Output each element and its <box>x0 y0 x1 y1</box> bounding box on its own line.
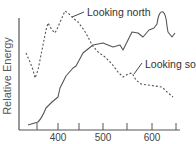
x-ticks <box>37 123 176 130</box>
north-leader-line <box>72 12 84 17</box>
south-leader-line <box>134 63 142 74</box>
x-tick-label-600: 600 <box>144 132 161 143</box>
series-looking-south <box>26 11 173 97</box>
x-tick-label-400: 400 <box>50 132 67 143</box>
annotation-looking-north: Looking north <box>87 6 151 18</box>
x-tick-label-500: 500 <box>95 132 112 143</box>
annotation-looking-south: Looking south <box>145 58 196 70</box>
y-axis-label: Relative Energy <box>1 37 13 115</box>
spectrum-chart: 400 500 600 Relative Energy Looking nort… <box>0 0 196 144</box>
